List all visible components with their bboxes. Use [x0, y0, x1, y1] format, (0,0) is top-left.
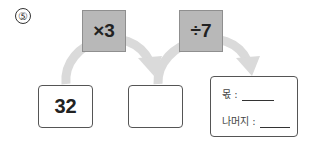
problem-number: ⑤ — [15, 8, 31, 24]
start-value-box: 32 — [38, 85, 93, 128]
middle-answer-box[interactable] — [128, 85, 183, 128]
remainder-row: 나머지 : — [222, 113, 290, 128]
operation-multiply-3: ×3 — [82, 10, 126, 52]
remainder-blank[interactable] — [260, 117, 290, 128]
remainder-label: 나머지 : — [222, 116, 256, 127]
result-box: 몫 : 나머지 : — [210, 76, 298, 137]
operation-divide-7: ÷7 — [179, 10, 223, 52]
quotient-label: 몫 : — [222, 89, 238, 100]
quotient-row: 몫 : — [222, 86, 274, 101]
quotient-blank[interactable] — [242, 90, 274, 101]
